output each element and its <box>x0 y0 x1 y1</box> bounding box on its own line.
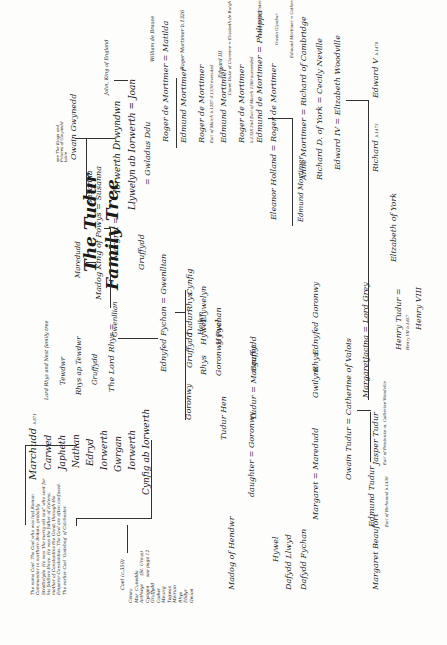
note: Countess of Ulster <box>258 0 262 38</box>
person-hywel-3: Hywel <box>272 536 280 562</box>
person-john: John, King of England <box>104 39 109 95</box>
person-anne-richard: Anne Mortimer = Richard of Cambridge <box>300 16 308 180</box>
person-tudur-hen: Tudur Hen <box>220 396 228 440</box>
connector <box>76 518 77 526</box>
person-edmund-mortimer-1: Edmund Mortimer <box>180 68 188 143</box>
person-ednyfed-2: Ednyfed <box>312 322 320 355</box>
person-margaret-maredudd: Margaret = Maredudd <box>312 428 320 520</box>
person-madog-of-hendwr: Madog of Hendwr <box>228 516 236 590</box>
person-rhys-3: Rhys <box>312 352 320 372</box>
person-edmund-catherine: Edmund Mortimer = Catherine <box>290 0 294 58</box>
person-jasper-tudur: Jasper Tudur <box>372 412 380 465</box>
person-margaret-3: Margaret <box>362 360 370 398</box>
note: Henry VII b.1457 <box>406 315 410 350</box>
person-margaret-beaufort: Margaret Beaufort <box>372 514 380 590</box>
person-iorwerth: Iorwerth <box>100 430 109 470</box>
person-hywel-2: Hywel <box>215 319 223 345</box>
connector <box>268 118 292 119</box>
note: Earl of Pembroke m. Catherine Woodville <box>383 381 387 465</box>
gwynedd-caption: see The Kings and Princes of Gwynedd tab… <box>56 112 68 162</box>
person-cynfig: Cynfig ab Iorwerth <box>142 409 151 495</box>
person-gwrgan: Gwrgan <box>114 436 123 472</box>
person-gruffydd-3: Gruffydd <box>250 336 258 372</box>
connector <box>357 410 371 411</box>
person-daughter-goronwy: daughter = Goronwy <box>248 412 256 497</box>
person-roger-matilda: Roger de Mortimer = Matilda <box>162 21 170 142</box>
person-ednyfed-gwenllian: Ednyfed Fychan = Gwenllian <box>160 254 168 372</box>
connector <box>25 445 26 525</box>
person-iorwerth-2: Iorwerth <box>128 430 137 470</box>
connector <box>118 338 158 339</box>
person-goronwy-3: Goronwy <box>312 282 320 318</box>
person-owain-catherine: Owain Tudur = Catherine of Valois <box>345 338 353 480</box>
person-rhys-ap-tewdwr: Rhys ap Tewdwr <box>76 336 83 395</box>
person-dafydd-fychan: Dafydd Fychan <box>300 529 308 590</box>
person-edward-v: Edward V b.1470 <box>372 42 380 98</box>
connector <box>292 118 293 226</box>
person-eleanor-roger: Eleanor Holland = Roger de Mortimer <box>270 64 278 220</box>
person-margret: Margret = <box>112 217 120 260</box>
person-lionel: Lionel Duke of Clarence = Elizabeth de B… <box>228 1 232 95</box>
person-llywelyn-2: Llywelyn <box>200 286 208 322</box>
connector <box>114 80 128 81</box>
person-japheth: Japheth <box>58 435 67 470</box>
person-gwenllian: Gwenllian <box>112 301 119 337</box>
person-susanna-spouse: Susanna <box>86 170 94 205</box>
person-dafydd-llwyd: Dafydd Llwyd <box>285 534 293 590</box>
person-llywelyn: Llywelyn ab Iorwerth = Joan <box>128 79 137 210</box>
person-gruffydd: Gruffydd <box>138 234 146 270</box>
coel-descendants: Ceneu Mor Cunedda Arthwys (St. Ursus) Cy… <box>128 550 194 603</box>
coel-head: Coel (c.350) <box>120 559 125 590</box>
person-gruffydd: Gruffydd <box>92 354 99 385</box>
connector <box>75 138 115 139</box>
person-hywel: Hywel <box>200 319 208 345</box>
person-roger-mortimer-2: Roger de Mortimer <box>198 65 206 143</box>
connector <box>176 78 177 148</box>
person-cynfig: Cynfig <box>186 269 194 295</box>
person-edward-iv: Edward IV = Elizabeth Woodville <box>334 35 342 170</box>
person-gwilym: Gwilym <box>312 368 320 398</box>
person-edryd: Edryd <box>86 439 95 466</box>
person-elizabeth-of-york: Elizabeth of York <box>390 193 398 262</box>
connector <box>175 312 185 313</box>
connector <box>370 412 371 462</box>
note: Earl of Richmond b.1430 <box>385 476 389 527</box>
person-rhys-2: Rhys <box>200 355 208 375</box>
connector <box>151 440 152 518</box>
person-richard-cecily: Richard D. of York = Cecily Neville <box>316 38 324 180</box>
person-jacina-grey: Jacina = Lord Grey <box>362 282 370 360</box>
person-henry-tudur: Henry Tudur = <box>395 288 403 350</box>
family-tree-page: The Tudur Family Tree The name Coel. The… <box>0 0 447 645</box>
person-madog: Madog King of Powys = Susanna <box>95 166 103 300</box>
person-maredudd: Maredudd <box>75 241 82 278</box>
connector <box>346 100 368 101</box>
note: b.1328 2nd Earl of March 1360 succeeded <box>250 57 254 143</box>
person-edward-iii: Edward III <box>218 51 223 78</box>
person-gruffydd-b: Gruffydd <box>186 332 194 368</box>
person-tudur: Tudur <box>186 311 194 336</box>
rhys-caption: Lord Rhys and Nest family tree <box>44 321 49 400</box>
person-roger-mortimer-side: Roger Mortimer b.1326 <box>180 10 185 70</box>
person-gwladus: = Gwladus Ddu <box>144 122 152 185</box>
person-rhys: Rhys <box>186 292 194 312</box>
person-tewdwr: Tewdwr <box>60 357 67 385</box>
marchudd-head: Marchudd b.871 <box>28 413 38 480</box>
person-william-de-braose: William de Braose <box>150 16 155 62</box>
person-henry-viii: Henry VIII <box>415 287 423 330</box>
person-owain-gwynedd: Owain Gwynedd <box>70 94 78 160</box>
person-owain-glyndwr: Owain Glyndwr <box>275 14 279 45</box>
note: Earl of March b.1287 d.1330 executed <box>210 65 214 143</box>
coel-note: The name Coel. The Coel who was last Rom… <box>30 477 64 595</box>
person-goronwy: Goronwy <box>185 384 193 420</box>
person-roger-mortimer-3: Roger de Mortimer <box>238 65 246 143</box>
person-richard: Richard b.1473 <box>372 124 380 173</box>
person-carwed: Carwed <box>44 435 53 470</box>
connector <box>76 518 152 519</box>
person-nathan: Nathan <box>72 434 81 468</box>
person-iorwerth-drwyndwn: Iorwerth Drwyndwn <box>113 101 122 193</box>
